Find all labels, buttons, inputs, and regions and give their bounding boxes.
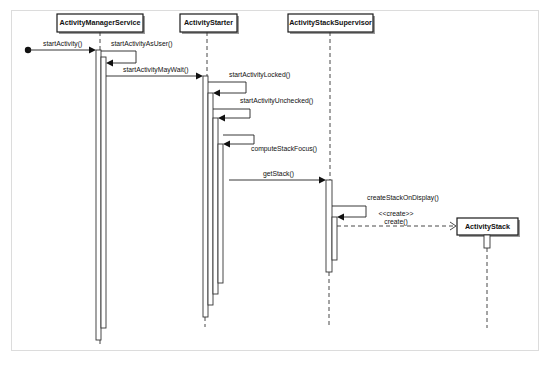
lifeline-activity-stack-supervisor: ActivityStackSupervisor: [288, 14, 375, 328]
arrow-head-icon: [213, 90, 220, 97]
activation-bar: [208, 93, 213, 305]
message-label: getStack(): [263, 170, 294, 178]
lifeline-label: ActivityStack: [465, 222, 510, 231]
message-start-activity-locked: startActivityLocked(): [208, 71, 290, 97]
message-get-stack: getStack(): [229, 170, 326, 184]
message-label: startActivityLocked(): [229, 71, 290, 79]
message-label: startActivityAsUser(): [111, 40, 173, 48]
message-start-activity-as-user: startActivityAsUser(): [101, 40, 173, 67]
activation-bar: [203, 76, 208, 317]
activations-as: [203, 76, 223, 317]
activations-stack: [484, 235, 490, 248]
activation-bar: [96, 50, 101, 340]
arrow-head-icon: [337, 214, 344, 221]
arrow-head-icon: [218, 115, 225, 122]
activation-bar: [326, 180, 332, 272]
arrow-head-icon: [223, 141, 230, 148]
activation-bar: [332, 217, 337, 260]
message-start-activity: startActivity(): [25, 40, 96, 54]
message-label: startActivityUnchecked(): [240, 97, 313, 105]
activation-bar: [484, 235, 490, 248]
activations-ams: [96, 50, 106, 340]
message-start-activity-unchecked: startActivityUnchecked(): [213, 97, 313, 122]
lifeline-label: ActivityStarter: [184, 18, 233, 27]
message-label: createStackOnDisplay(): [367, 194, 439, 202]
activations-ass: [326, 180, 337, 272]
message-label: startActivity(): [43, 40, 82, 48]
diagram-frame: [12, 11, 539, 351]
lifeline-label: ActivityManagerService: [59, 18, 140, 27]
lifeline-activity-stack: ActivityStack: [457, 218, 520, 328]
activation-bar: [218, 144, 223, 283]
arrow-head-icon: [196, 73, 203, 80]
message-label: create(): [384, 218, 407, 226]
stereotype-label: <<create>>: [379, 210, 414, 217]
message-label: computeStackFocus(): [251, 145, 317, 153]
message-create: <<create>> create(): [337, 210, 456, 231]
arrow-head-icon: [89, 47, 96, 54]
lifeline-label: ActivityStackSupervisor: [289, 18, 372, 27]
activation-bar: [101, 57, 106, 328]
activation-bar: [213, 118, 218, 294]
sequence-diagram: ActivityManagerService ActivityStarter A…: [0, 0, 548, 367]
arrow-head-icon: [106, 60, 113, 67]
message-start-activity-may-wait: startActivityMayWait(): [106, 66, 203, 80]
arrow-head-icon: [319, 177, 326, 184]
message-label: startActivityMayWait(): [123, 66, 188, 74]
message-compute-stack-focus: computeStackFocus(): [223, 135, 317, 153]
